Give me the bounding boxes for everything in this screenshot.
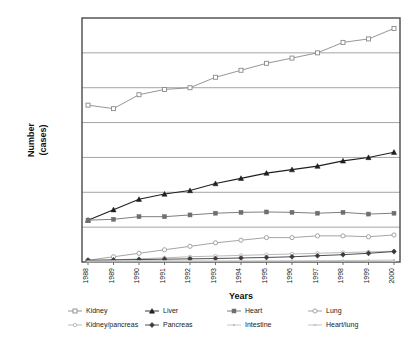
data-point: [86, 103, 90, 107]
data-point: [392, 233, 396, 237]
legend-label: Kidney/pancreas: [86, 321, 139, 329]
data-point: [315, 234, 319, 238]
data-point: [162, 248, 166, 252]
x-tick-label: 1996: [286, 268, 293, 284]
data-point: [367, 212, 371, 216]
data-point: [112, 217, 116, 221]
chart-canvas: Number (cases) 1988198919901991199219931…: [0, 0, 412, 348]
data-point: [137, 251, 141, 255]
x-tick-label: 1991: [159, 268, 166, 284]
legend-label: Pancreas: [163, 321, 193, 328]
y-axis-title-line1: Number: [26, 123, 36, 158]
legend-label: Lung: [326, 307, 342, 315]
x-tick-label: 1995: [261, 268, 268, 284]
data-point: [188, 244, 192, 248]
data-point: [112, 107, 116, 111]
data-point: [137, 93, 141, 97]
legend-label: Liver: [163, 307, 179, 314]
data-point: [316, 51, 320, 55]
series-heart-lung: [86, 261, 396, 262]
x-tick-label: 1997: [312, 268, 319, 284]
data-point: [341, 210, 345, 214]
data-point: [392, 211, 396, 215]
data-point: [188, 213, 192, 217]
x-tick-label: 1992: [184, 268, 191, 284]
legend-label: Kidney: [86, 307, 108, 315]
data-point: [341, 234, 345, 238]
transplant-line-chart: Number (cases) 1988198919901991199219931…: [0, 0, 412, 348]
data-point: [86, 218, 90, 222]
data-point: [265, 210, 269, 214]
x-tick-label: 1998: [337, 268, 344, 284]
data-point: [73, 323, 76, 326]
chart-background: [0, 0, 412, 348]
data-point: [367, 37, 371, 41]
data-point: [264, 236, 268, 240]
data-point: [290, 56, 294, 60]
data-point: [313, 309, 317, 313]
data-point: [232, 309, 236, 313]
data-point: [214, 211, 218, 215]
data-point: [163, 215, 167, 219]
data-point: [239, 238, 243, 242]
x-tick-label: 1993: [210, 268, 217, 284]
legend-label: Intestine: [245, 321, 272, 328]
data-point: [73, 309, 77, 313]
x-tick-label: 1989: [108, 268, 115, 284]
data-point: [265, 61, 269, 65]
data-point: [366, 235, 370, 239]
data-point: [163, 87, 167, 91]
data-point: [290, 236, 294, 240]
y-axis-title-line2: (cases): [38, 124, 48, 155]
data-point: [316, 211, 320, 215]
data-point: [137, 215, 141, 219]
data-point: [233, 324, 235, 326]
data-point: [290, 210, 294, 214]
legend-label: Heart/lung: [326, 321, 358, 329]
data-point: [393, 259, 395, 261]
x-tick-label: 1990: [133, 268, 140, 284]
data-point: [239, 210, 243, 214]
x-axis-title: Years: [229, 291, 253, 301]
x-tick-label: 2000: [388, 268, 395, 284]
data-point: [213, 241, 217, 245]
legend-label: Heart: [245, 307, 262, 314]
data-point: [239, 68, 243, 72]
x-tick-label: 1994: [235, 268, 242, 284]
x-tick-label: 1999: [363, 268, 370, 284]
data-point: [392, 26, 396, 30]
data-point: [341, 40, 345, 44]
data-point: [188, 86, 192, 90]
data-point: [214, 75, 218, 79]
x-tick-label: 1988: [82, 268, 89, 284]
